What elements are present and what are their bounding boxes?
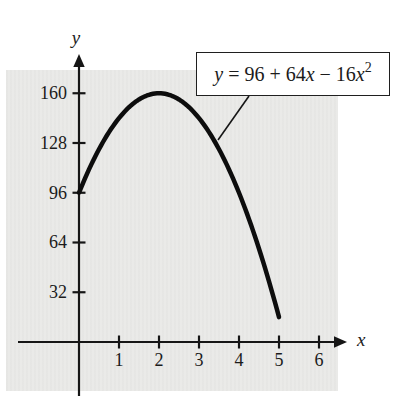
x-tick-label: 2 (155, 350, 164, 370)
equation-part: x (306, 63, 315, 85)
x-tick-label: 4 (235, 350, 244, 370)
figure-canvas: 123456326496128160xy y = 96 + 64x − 16x2 (0, 0, 403, 405)
x-tick-label: 6 (315, 350, 324, 370)
x-tick-label: 3 (195, 350, 204, 370)
equation-part: x (356, 63, 365, 85)
equation-box: y = 96 + 64x − 16x2 (196, 52, 390, 96)
y-tick-label: 64 (49, 232, 67, 252)
equation-leader-line (218, 96, 249, 140)
x-axis-title: x (356, 329, 366, 350)
equation-part: − 16 (315, 63, 356, 85)
x-axis-arrow-icon (334, 336, 347, 347)
y-tick-label: 160 (40, 83, 67, 103)
y-axis-arrow-icon (73, 54, 84, 67)
y-axis-title: y (70, 27, 81, 48)
y-tick-label: 96 (49, 183, 67, 203)
equation-label: y = 96 + 64x − 16x2 (214, 63, 372, 86)
x-tick-label: 1 (115, 350, 124, 370)
parabola-curve (79, 93, 279, 317)
equation-part: = 96 + 64 (223, 63, 306, 85)
equation-part: 2 (365, 60, 372, 75)
y-tick-label: 128 (40, 133, 67, 153)
equation-part: y (214, 63, 223, 85)
x-tick-label: 5 (275, 350, 284, 370)
y-tick-label: 32 (49, 282, 67, 302)
